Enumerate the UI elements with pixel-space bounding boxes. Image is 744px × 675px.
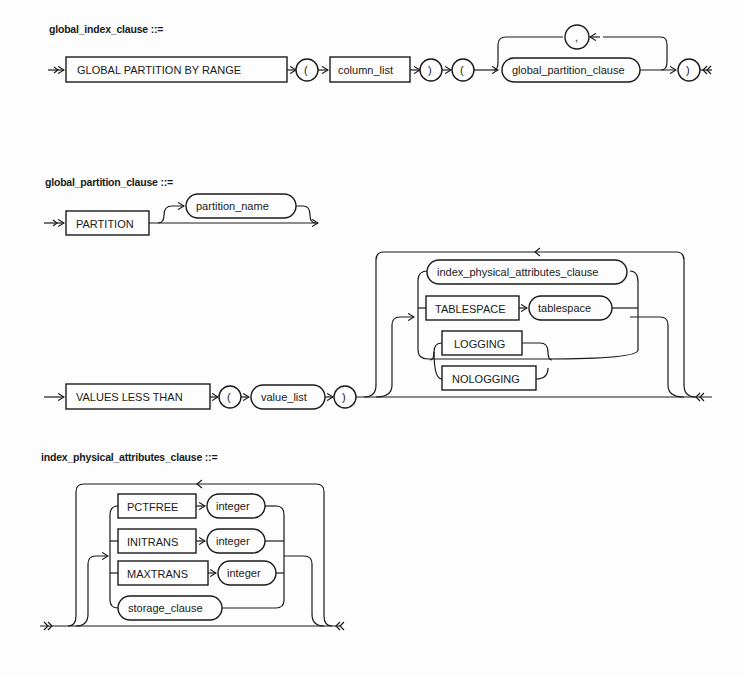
symbol-comma: , [575, 31, 578, 43]
nonterminal-global-partition-clause: global_partition_clause [512, 64, 625, 76]
nonterminal-integer-2: integer [216, 535, 250, 547]
keyword-maxtrans: MAXTRANS [127, 568, 188, 580]
keyword-values-less-than: VALUES LESS THAN [76, 391, 183, 403]
diagram-index-physical-attributes-clause: PCTFREE integer INITRANS integer MAXTRAN… [40, 480, 344, 630]
nonterminal-value-list: value_list [261, 391, 307, 403]
syntax-diagrams: GLOBAL PARTITION BY RANGE ( column_list … [0, 0, 744, 675]
keyword-initrans: INITRANS [127, 536, 178, 548]
symbol-close-paren-2: ) [686, 64, 690, 76]
diagram-global-index-clause: GLOBAL PARTITION BY RANGE ( column_list … [48, 25, 712, 82]
nonterminal-partition-name: partition_name [196, 200, 269, 212]
symbol-close-paren: ) [428, 64, 432, 76]
nonterminal-storage-clause: storage_clause [128, 602, 203, 614]
symbol-open-paren: ( [304, 64, 308, 76]
diagram-global-partition-clause: PARTITION partition_name VALUES LESS THA… [44, 194, 712, 409]
keyword-column-list: column_list [338, 64, 393, 76]
nonterminal-tablespace: tablespace [538, 302, 591, 314]
symbol-open-paren: ( [227, 391, 231, 403]
nonterminal-index-physical-attributes-clause: index_physical_attributes_clause [437, 266, 598, 278]
symbol-close-paren: ) [342, 391, 346, 403]
nonterminal-integer-1: integer [216, 500, 250, 512]
keyword-nologging: NOLOGGING [452, 373, 520, 385]
keyword-logging: LOGGING [454, 338, 505, 350]
keyword-global-partition-by-range: GLOBAL PARTITION BY RANGE [77, 64, 241, 76]
nonterminal-integer-3: integer [227, 567, 261, 579]
symbol-open-paren-2: ( [460, 64, 464, 76]
keyword-pctfree: PCTFREE [127, 501, 178, 513]
keyword-partition: PARTITION [76, 218, 134, 230]
keyword-tablespace: TABLESPACE [435, 303, 506, 315]
